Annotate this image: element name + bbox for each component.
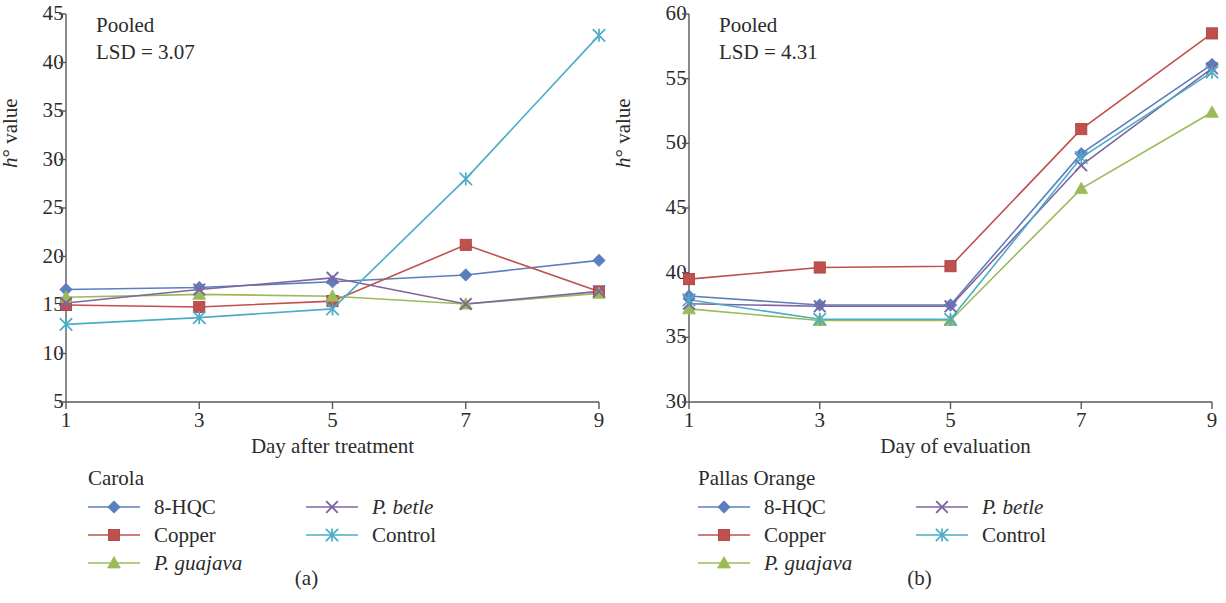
x-tick-label: 7 — [1061, 410, 1101, 431]
data-point-triangle — [1206, 106, 1219, 117]
legend-key-square-icon — [86, 525, 142, 545]
x-tick-label: 3 — [800, 410, 840, 431]
y-tick-label: 60 — [647, 3, 687, 24]
y-tick-label: 45 — [647, 197, 687, 218]
legend-key — [914, 525, 970, 545]
y-tick-label: 35 — [647, 326, 687, 347]
x-tick-label: 7 — [446, 410, 486, 431]
y-tick-label: 20 — [24, 246, 64, 267]
legend-title-b: Pallas Orange — [696, 466, 1166, 491]
y-tick-label: 50 — [647, 132, 687, 153]
y-tick-label: 25 — [24, 197, 64, 218]
data-point-square — [814, 262, 825, 273]
legend-key — [304, 497, 360, 517]
y-axis-title-symbol-a: h — [0, 158, 22, 169]
legend-label: P. betle — [372, 495, 433, 520]
plot-area-b — [689, 14, 1222, 402]
y-tick-label: 30 — [647, 391, 687, 412]
data-point-square — [683, 274, 694, 285]
y-tick-label: 40 — [24, 52, 64, 73]
y-axis-title-text-a: value — [0, 98, 22, 149]
annotation-line1-a: Pooled — [96, 13, 154, 37]
x-tick-label: 5 — [313, 410, 353, 431]
y-axis-title-symbol-b: h — [611, 158, 635, 169]
y-axis-title-degree-b: ° — [611, 149, 635, 157]
series-line-p-guajava — [689, 112, 1212, 320]
legend-key — [304, 525, 360, 545]
data-point-asterisk — [593, 29, 605, 42]
annotation-line2-a: LSD = 3.07 — [96, 40, 195, 64]
data-point-diamond — [718, 501, 730, 513]
panel-a: 51015202530354045 Pooled LSD = 3.07 1357… — [0, 0, 613, 603]
legend-key — [86, 525, 142, 545]
panel-b: 30354045505560 Pooled LSD = 4.31 13579 D… — [613, 0, 1226, 603]
y-axis-title-a: h° value — [0, 98, 23, 168]
x-axis-title-a: Day after treatment — [66, 434, 599, 459]
y-axis-tick-labels-b: 30354045505560 — [613, 0, 687, 388]
x-axis-tick-labels-b: 13579 — [689, 404, 1222, 434]
legend-b: Pallas Orange 8-HQCCopperP. guajavaP. be… — [696, 466, 1166, 578]
x-tick-label: 1 — [46, 410, 86, 431]
annotation-b: Pooled LSD = 4.31 — [719, 12, 818, 66]
x-axis-title-b: Day of evaluation — [689, 434, 1222, 459]
legend-item-p-betle[interactable]: P. betle — [304, 494, 433, 520]
legend-title-a: Carola — [86, 466, 556, 491]
y-tick-label: 30 — [24, 149, 64, 170]
legend-key-square-icon — [696, 525, 752, 545]
data-point-square — [460, 239, 471, 250]
data-point-square — [108, 529, 119, 540]
data-point-square — [718, 529, 729, 540]
legend-a: Carola 8-HQCCopperP. guajavaP. betleCont… — [86, 466, 556, 578]
y-tick-label: 35 — [24, 100, 64, 121]
legend-item-copper[interactable]: Copper — [86, 522, 216, 548]
y-axis-title-b: h° value — [611, 98, 636, 168]
data-point-asterisk — [460, 172, 472, 185]
y-tick-label: 55 — [647, 68, 687, 89]
legend-label: Copper — [764, 523, 826, 548]
annotation-line1-b: Pooled — [719, 13, 777, 37]
series-line-copper — [689, 33, 1212, 279]
data-point-diamond — [460, 269, 472, 281]
line-chart-a — [66, 14, 599, 402]
y-axis-title-text-b: value — [611, 98, 635, 149]
y-axis-tick-labels-a: 51015202530354045 — [0, 0, 64, 388]
x-axis-tick-labels-a: 13579 — [66, 404, 599, 434]
plot-area-a — [66, 14, 599, 402]
legend-item-p-betle[interactable]: P. betle — [914, 494, 1043, 520]
legend-label: Control — [982, 523, 1046, 548]
y-tick-label: 45 — [24, 3, 64, 24]
legend-key — [696, 525, 752, 545]
data-point-square — [194, 301, 205, 312]
legend-key-diamond-icon — [696, 497, 752, 517]
panel-caption-b: (b) — [613, 566, 1226, 591]
legend-item-copper[interactable]: Copper — [696, 522, 826, 548]
legend-key — [696, 497, 752, 517]
data-point-square — [1206, 28, 1217, 39]
annotation-a: Pooled LSD = 3.07 — [96, 12, 195, 66]
legend-key-asterisk-icon — [304, 525, 360, 545]
legend-label: Control — [372, 523, 436, 548]
legend-key — [86, 497, 142, 517]
legend-item-control[interactable]: Control — [914, 522, 1046, 548]
annotation-line2-b: LSD = 4.31 — [719, 40, 818, 64]
x-tick-label: 1 — [669, 410, 709, 431]
y-axis-title-degree-a: ° — [0, 149, 22, 157]
data-point-diamond — [108, 501, 120, 513]
line-chart-b — [689, 14, 1212, 402]
y-tick-label: 5 — [24, 391, 64, 412]
x-tick-label: 3 — [179, 410, 219, 431]
legend-key-asterisk-icon — [914, 525, 970, 545]
legend-item-control[interactable]: Control — [304, 522, 436, 548]
y-tick-label: 40 — [647, 262, 687, 283]
figure-container: 51015202530354045 Pooled LSD = 3.07 1357… — [0, 0, 1226, 603]
x-tick-label: 5 — [931, 410, 971, 431]
legend-item-8-hqc[interactable]: 8-HQC — [86, 494, 216, 520]
legend-key-cross-icon — [914, 497, 970, 517]
legend-key-cross-icon — [304, 497, 360, 517]
data-point-square — [1076, 124, 1087, 135]
legend-key-diamond-icon — [86, 497, 142, 517]
legend-item-8-hqc[interactable]: 8-HQC — [696, 494, 826, 520]
y-tick-label: 10 — [24, 343, 64, 364]
legend-label: P. betle — [982, 495, 1043, 520]
legend-label: 8-HQC — [764, 495, 826, 520]
